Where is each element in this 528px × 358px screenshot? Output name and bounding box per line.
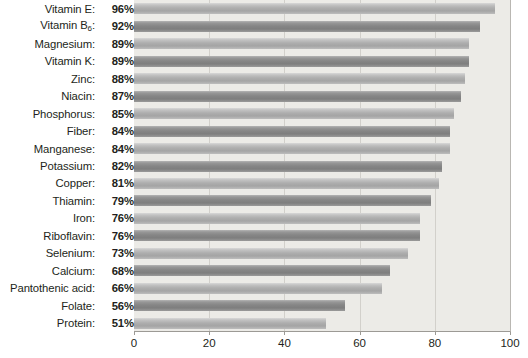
x-tick-label-80: 80 — [428, 337, 441, 349]
x-tick-mark-100 — [510, 332, 511, 335]
x-tick-mark-0 — [134, 332, 135, 335]
category-row: Zinc:88% — [0, 72, 134, 86]
category-label: Fiber: — [67, 125, 95, 137]
category-row: Niacin:87% — [0, 89, 134, 103]
bar — [134, 178, 439, 189]
category-label: Manganese: — [34, 143, 95, 155]
x-tick-mark-80 — [435, 332, 436, 335]
category-row: Calcium:68% — [0, 264, 134, 278]
category-label: Vitamin K: — [45, 55, 95, 67]
bar — [134, 21, 480, 32]
category-label: Niacin: — [61, 90, 95, 102]
category-row: Pantothenic acid:66% — [0, 281, 134, 295]
bar — [134, 195, 431, 206]
bar — [134, 108, 454, 119]
category-label: Calcium: — [52, 265, 95, 277]
category-value: 82% — [100, 160, 134, 172]
x-tick-mark-60 — [360, 332, 361, 335]
category-value: 81% — [100, 177, 134, 189]
category-row: Vitamin B6:92% — [0, 19, 134, 33]
category-label: Pantothenic acid: — [10, 282, 95, 294]
bar — [134, 73, 465, 84]
bar — [134, 318, 326, 329]
category-row: Selenium:73% — [0, 246, 134, 260]
category-value: 84% — [100, 143, 134, 155]
category-row: Phosphorus:85% — [0, 107, 134, 121]
bar — [134, 300, 345, 311]
bar — [134, 126, 450, 137]
category-row: Copper:81% — [0, 176, 134, 190]
category-row: Thiamin:79% — [0, 194, 134, 208]
bar — [134, 161, 442, 172]
category-row: Fiber:84% — [0, 124, 134, 138]
category-row: Folate:56% — [0, 299, 134, 313]
category-value: 89% — [100, 38, 134, 50]
category-label: Vitamin E: — [45, 3, 95, 15]
category-row: Manganese:84% — [0, 142, 134, 156]
category-row: Magnesium:89% — [0, 37, 134, 51]
category-label: Folate: — [61, 300, 95, 312]
category-value: 79% — [100, 195, 134, 207]
x-tick-mark-20 — [209, 332, 210, 335]
category-row: Vitamin K:89% — [0, 54, 134, 68]
category-value: 56% — [100, 300, 134, 312]
category-row: Protein:51% — [0, 316, 134, 330]
category-row: Potassium:82% — [0, 159, 134, 173]
category-label: Zinc: — [71, 73, 95, 85]
bar — [134, 38, 469, 49]
category-label-subscript: 6 — [88, 24, 92, 33]
plot-area — [134, 0, 511, 332]
x-tick-label-60: 60 — [353, 337, 366, 349]
category-label: Protein: — [57, 317, 95, 329]
category-value: 87% — [100, 90, 134, 102]
bar-chart: Vitamin E:96%Vitamin B6:92%Magnesium:89%… — [0, 0, 528, 358]
x-tick-label-0: 0 — [131, 337, 137, 349]
x-tick-label-20: 20 — [203, 337, 216, 349]
category-value: 96% — [100, 3, 134, 15]
category-label-column: Vitamin E:96%Vitamin B6:92%Magnesium:89%… — [0, 0, 134, 332]
category-value: 89% — [100, 55, 134, 67]
category-label: Iron: — [73, 212, 95, 224]
category-label: Riboflavin: — [43, 230, 95, 242]
category-value: 88% — [100, 73, 134, 85]
bar — [134, 265, 390, 276]
category-value: 85% — [100, 108, 134, 120]
category-label: Selenium: — [46, 247, 95, 259]
category-value: 66% — [100, 282, 134, 294]
category-value: 76% — [100, 230, 134, 242]
category-label: Thiamin: — [52, 195, 95, 207]
category-value: 92% — [100, 20, 134, 32]
bar — [134, 3, 495, 14]
category-value: 76% — [100, 212, 134, 224]
category-label: Phosphorus: — [33, 108, 95, 120]
x-tick-label-40: 40 — [278, 337, 291, 349]
bar — [134, 91, 461, 102]
bar — [134, 283, 382, 294]
bar — [134, 56, 469, 67]
category-value: 84% — [100, 125, 134, 137]
bar — [134, 213, 420, 224]
category-row: Iron:76% — [0, 211, 134, 225]
category-row: Riboflavin:76% — [0, 229, 134, 243]
category-value: 68% — [100, 265, 134, 277]
category-value: 73% — [100, 247, 134, 259]
category-value: 51% — [100, 317, 134, 329]
bar — [134, 248, 408, 259]
category-label: Magnesium: — [34, 38, 95, 50]
category-label: Potassium: — [40, 160, 95, 172]
category-label: Vitamin B6: — [40, 19, 95, 33]
category-row: Vitamin E:96% — [0, 2, 134, 16]
bar — [134, 230, 420, 241]
x-tick-mark-40 — [284, 332, 285, 335]
category-label: Copper: — [56, 177, 96, 189]
x-tick-label-100: 100 — [500, 337, 519, 349]
x-axis: 020406080100 — [134, 332, 511, 358]
bar — [134, 143, 450, 154]
